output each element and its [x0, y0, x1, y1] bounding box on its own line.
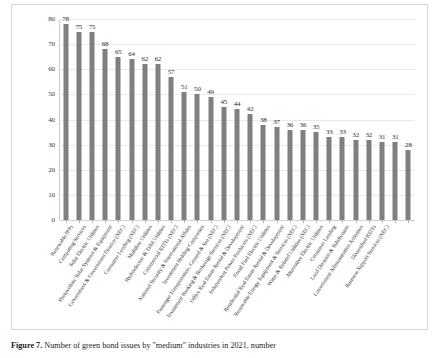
bar-slot[interactable]: 32 [362, 19, 375, 220]
bar-slot[interactable]: 49 [204, 19, 217, 220]
bar-slot[interactable]: 62 [138, 19, 151, 220]
plot-area: 7875756865646262575150494544423837363635… [59, 19, 415, 220]
bar[interactable] [274, 127, 279, 220]
bar-slot[interactable]: 50 [191, 19, 204, 220]
bar-slot[interactable]: 65 [112, 19, 125, 220]
bar[interactable] [103, 49, 108, 220]
x-tick-mark [342, 220, 343, 223]
bar-slot[interactable]: 31 [375, 19, 388, 220]
bar[interactable] [234, 109, 239, 220]
bar-slot[interactable]: 33 [323, 19, 336, 220]
bar-value-label: 75 [89, 23, 96, 31]
bar-value-label: 35 [313, 123, 320, 131]
bar[interactable] [380, 142, 385, 220]
bar-value-label: 64 [128, 50, 135, 58]
bar[interactable] [366, 140, 371, 220]
y-tick-label-80: 80 [48, 15, 55, 23]
y-tick-label-30: 30 [48, 141, 55, 149]
bar[interactable] [142, 64, 147, 220]
bar[interactable] [340, 137, 345, 220]
bar-value-label: 45 [220, 98, 227, 106]
x-tick-mark [316, 220, 317, 223]
x-tick-mark [303, 220, 304, 223]
bar[interactable] [76, 32, 81, 220]
bar-value-label: 37 [273, 118, 280, 126]
bar[interactable] [353, 140, 358, 220]
bar[interactable] [116, 57, 121, 220]
bar[interactable] [208, 97, 213, 220]
bar-slot[interactable]: 42 [244, 19, 257, 220]
bar-slot[interactable]: 32 [349, 19, 362, 220]
bar[interactable] [182, 92, 187, 220]
x-tick-mark [132, 220, 133, 223]
bar-value-label: 65 [115, 48, 122, 56]
bar[interactable] [63, 24, 68, 220]
x-tick-mark [224, 220, 225, 223]
bar-slot[interactable]: 31 [389, 19, 402, 220]
bar[interactable] [89, 32, 94, 220]
bar-value-label: 50 [194, 85, 201, 93]
bar-value-label: 31 [392, 133, 399, 141]
x-tick-mark [197, 220, 198, 223]
bar[interactable] [169, 77, 174, 220]
bar-slot[interactable]: 64 [125, 19, 138, 220]
bar-slot[interactable]: 36 [296, 19, 309, 220]
figure-caption-text: Number of green bond issues by "medium" … [44, 341, 276, 350]
bar-value-label: 68 [102, 40, 109, 48]
x-tick-mark [290, 220, 291, 223]
x-tick-mark [105, 220, 106, 223]
bar-slot[interactable]: 75 [72, 19, 85, 220]
x-tick-mark [184, 220, 185, 223]
bar[interactable] [393, 142, 398, 220]
bar[interactable] [261, 125, 266, 220]
bar[interactable] [327, 137, 332, 220]
bar-slot[interactable]: 57 [164, 19, 177, 220]
bar-slot[interactable]: 51 [178, 19, 191, 220]
bar-value-label: 32 [352, 131, 359, 139]
bar-slot[interactable]: 33 [336, 19, 349, 220]
bar-slot[interactable]: 45 [217, 19, 230, 220]
bar[interactable] [129, 59, 134, 220]
bar-value-label: 36 [300, 121, 307, 129]
bar-slot[interactable]: 75 [85, 19, 98, 220]
x-tick-mark [79, 220, 80, 223]
x-tick-mark [329, 220, 330, 223]
y-tick-label-70: 70 [48, 40, 55, 48]
bar[interactable] [287, 130, 292, 220]
x-tick-mark [66, 220, 67, 223]
figure-container: 01020304050607080 7875756865646262575150… [0, 0, 439, 358]
x-tick-mark [369, 220, 370, 223]
bar-slot[interactable]: 35 [310, 19, 323, 220]
bar[interactable] [314, 132, 319, 220]
bar-value-label: 62 [141, 55, 148, 63]
bar-slot[interactable]: 38 [257, 19, 270, 220]
bar-value-label: 33 [326, 128, 333, 136]
bar-value-label: 38 [260, 116, 267, 124]
bar[interactable] [195, 94, 200, 220]
x-tick-mark [211, 220, 212, 223]
bar[interactable] [300, 130, 305, 220]
y-tick-label-50: 50 [48, 90, 55, 98]
bar-slot[interactable]: 68 [99, 19, 112, 220]
bar-value-label: 51 [181, 83, 188, 91]
bar[interactable] [406, 150, 411, 220]
bar[interactable] [221, 107, 226, 220]
bar-slot[interactable]: 37 [270, 19, 283, 220]
bar[interactable] [248, 114, 253, 220]
bar-value-label: 36 [286, 121, 293, 129]
bar-slot[interactable]: 36 [283, 19, 296, 220]
bar-slot[interactable]: 44 [230, 19, 243, 220]
x-tick-mark [158, 220, 159, 223]
bar-slot[interactable]: 62 [151, 19, 164, 220]
bar[interactable] [155, 64, 160, 220]
x-tick-mark [250, 220, 251, 223]
bar-value-label: 31 [379, 133, 386, 141]
bar-slot[interactable]: 78 [59, 19, 72, 220]
y-tick-label-20: 20 [48, 166, 55, 174]
bar-slot[interactable]: 28 [402, 19, 415, 220]
figure-caption: Figure 7. Number of green bond issues by… [11, 340, 431, 351]
bar-value-label: 42 [247, 105, 254, 113]
x-tick-mark [356, 220, 357, 223]
x-tick-mark [395, 220, 396, 223]
x-tick-mark [145, 220, 146, 223]
